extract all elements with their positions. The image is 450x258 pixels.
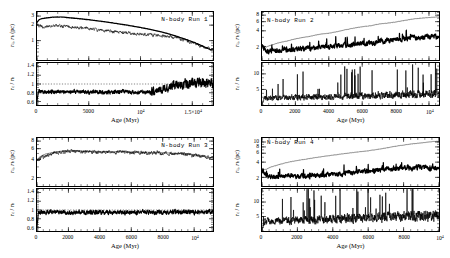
chart-panel-4: N-body Run 4246810rc, rh (pc)510rc / rh0…: [231, 134, 444, 254]
ratio-y-tick-label: 1.2: [27, 71, 34, 77]
x-tick-label: 8000: [158, 234, 169, 240]
ratio-y-tick-label: 1.4: [27, 188, 34, 194]
run-label: N-body Run 3: [161, 142, 208, 149]
ratio-axes: [261, 188, 440, 232]
x-axis-label: Age (Myr): [36, 242, 214, 249]
y-tick-label: 2: [31, 21, 34, 27]
x-tick-label: 2000: [289, 108, 300, 114]
x-axis-label: Age (Myr): [261, 116, 440, 123]
y-axis-label-ratio: rc / rh: [234, 187, 241, 231]
y-tick-label: 2: [31, 175, 34, 181]
ratio-axes: [261, 62, 440, 106]
x-tick-label: 104: [426, 108, 434, 115]
chart-panel-3: N-body Run 32468rc, rh (pc)0.60.811.21.4…: [6, 134, 218, 254]
ratio-y-tick-label: 0.8: [27, 90, 34, 96]
x-tick-label: 6000: [363, 234, 374, 240]
y-tick-label: 4: [256, 27, 259, 33]
y-axis-label-radii: rc, rh (pc): [9, 10, 16, 60]
y-tick-label: 10: [253, 138, 259, 144]
y-tick-label: 8: [31, 137, 34, 143]
x-tick-label: 0: [260, 108, 263, 114]
ratio-y-tick-label: 1.4: [27, 62, 34, 68]
chart-panel-2: N-body Run 22468rc, rh (pc)510rc / rh020…: [231, 8, 444, 128]
ratio-y-tick-label: 5: [256, 86, 259, 92]
x-tick-label: 8000: [399, 234, 410, 240]
x-tick-label: 5000: [83, 108, 94, 114]
ratio-y-tick-label: 1: [31, 207, 34, 213]
figure-root: N-body Run 1123rc, rh (pc)0.60.811.21.4r…: [0, 0, 450, 258]
run-label: N-body Run 1: [161, 16, 208, 23]
x-tick-label: 6000: [357, 108, 368, 114]
x-tick-label: 6000: [126, 234, 137, 240]
y-axis-label-ratio: rc / rh: [9, 187, 16, 231]
ratio-y-tick-label: 10: [253, 70, 259, 76]
x-tick-label: 1.5×104: [184, 108, 202, 115]
x-tick-label: 4000: [94, 234, 105, 240]
y-axis-label-ratio: rc / rh: [234, 61, 241, 105]
x-tick-label: 0: [35, 234, 38, 240]
x-tick-label: 4000: [327, 234, 338, 240]
chart-panel-1: N-body Run 1123rc, rh (pc)0.60.811.21.4r…: [6, 8, 218, 128]
y-tick-label: 4: [31, 156, 34, 162]
x-tick-label: 2000: [291, 234, 302, 240]
y-tick-label: 6: [256, 18, 259, 24]
ratio-y-tick-label: 0.8: [27, 216, 34, 222]
ratio-axes: [36, 62, 214, 106]
x-tick-label: 8000: [391, 108, 402, 114]
x-tick-label: 104: [191, 234, 199, 241]
y-tick-label: 1: [31, 37, 34, 43]
y-tick-label: 8: [256, 143, 259, 149]
ratio-y-tick-label: 0.6: [27, 225, 34, 231]
y-axis-label-radii: rc, rh (pc): [9, 136, 16, 186]
x-tick-label: 0: [260, 234, 263, 240]
run-label: N-body Run 2: [267, 17, 314, 24]
x-axis-label: Age (Myr): [36, 116, 214, 123]
x-tick-label: 104: [436, 234, 444, 241]
y-tick-label: 2: [256, 175, 259, 181]
ratio-y-tick-label: 5: [256, 213, 259, 219]
x-tick-label: 2000: [62, 234, 73, 240]
y-tick-label: 3: [31, 12, 34, 18]
ratio-y-tick-label: 0.6: [27, 99, 34, 105]
x-tick-label: 0: [35, 108, 38, 114]
y-axis-label-ratio: rc / rh: [9, 61, 16, 105]
ratio-y-tick-label: 1: [31, 81, 34, 87]
y-axis-label-radii: rc, rh (pc): [234, 10, 241, 60]
run-label: N-body Run 4: [267, 139, 314, 146]
y-axis-label-radii: rc, rh (pc): [234, 136, 241, 186]
x-axis-label: Age (Myr): [261, 242, 440, 249]
y-tick-label: 6: [256, 149, 259, 155]
x-tick-label: 4000: [323, 108, 334, 114]
ratio-y-tick-label: 1.2: [27, 197, 34, 203]
ratio-y-tick-label: 10: [253, 198, 259, 204]
y-tick-label: 6: [31, 145, 34, 151]
x-tick-label: 104: [137, 108, 145, 115]
y-tick-label: 2: [256, 44, 259, 50]
y-tick-label: 4: [256, 159, 259, 165]
ratio-axes: [36, 188, 214, 232]
y-tick-label: 8: [256, 11, 259, 17]
